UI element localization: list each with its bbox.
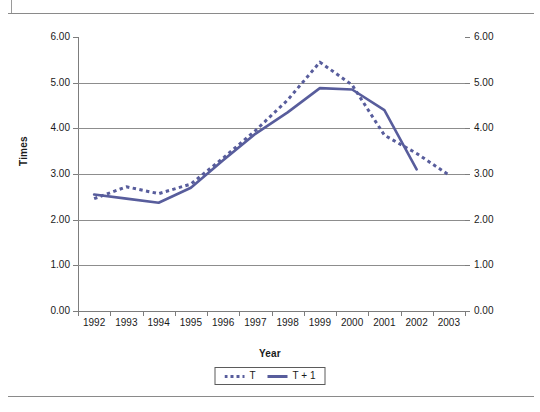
x-tick-label: 2003 bbox=[438, 318, 460, 328]
y-tick-label-right: 3.00 bbox=[474, 169, 493, 179]
x-tick bbox=[401, 311, 402, 316]
y-tick-right bbox=[465, 128, 470, 129]
x-tick bbox=[336, 311, 337, 316]
x-tick bbox=[110, 311, 111, 316]
y-tick-right bbox=[465, 37, 470, 38]
y-tick-right bbox=[465, 265, 470, 266]
y-tick-right bbox=[465, 174, 470, 175]
series-lines bbox=[78, 37, 465, 311]
x-tick-label: 2001 bbox=[373, 318, 395, 328]
x-tick bbox=[175, 311, 176, 316]
x-tick bbox=[304, 311, 305, 316]
y-tick-label-left: 3.00 bbox=[51, 169, 70, 179]
y-axis-title: Times bbox=[18, 136, 29, 166]
x-tick-label: 1992 bbox=[83, 318, 105, 328]
y-tick-label-left: 4.00 bbox=[51, 123, 70, 133]
x-tick-label: 2002 bbox=[406, 318, 428, 328]
legend-label-t-plus-1: T + 1 bbox=[293, 371, 316, 381]
plot-area: 0.000.001.001.002.002.003.003.004.004.00… bbox=[78, 37, 465, 311]
y-tick-label-left: 5.00 bbox=[51, 78, 70, 88]
legend-item-t: T bbox=[225, 371, 256, 381]
y-tick-label-left: 2.00 bbox=[51, 215, 70, 225]
y-tick-right bbox=[465, 220, 470, 221]
series-line-t1 bbox=[94, 88, 417, 203]
x-tick-label: 1998 bbox=[277, 318, 299, 328]
y-tick-label-left: 6.00 bbox=[51, 32, 70, 42]
x-tick-label: 1996 bbox=[212, 318, 234, 328]
x-tick-label: 1994 bbox=[148, 318, 170, 328]
x-tick bbox=[78, 311, 79, 316]
y-tick-label-right: 1.00 bbox=[474, 260, 493, 270]
x-axis-title: Year bbox=[0, 348, 540, 359]
x-tick bbox=[143, 311, 144, 316]
x-tick bbox=[207, 311, 208, 316]
x-tick-label: 1995 bbox=[180, 318, 202, 328]
y-tick-label-right: 4.00 bbox=[474, 123, 493, 133]
y-tick-label-right: 6.00 bbox=[474, 32, 493, 42]
line-chart: Times 0.000.001.001.002.002.003.003.004.… bbox=[0, 18, 540, 393]
x-tick-label: 1999 bbox=[309, 318, 331, 328]
y-tick-label-right: 0.00 bbox=[474, 306, 493, 316]
x-tick bbox=[433, 311, 434, 316]
page-rule-top bbox=[8, 13, 534, 14]
x-tick bbox=[465, 311, 466, 316]
y-tick-label-right: 2.00 bbox=[474, 215, 493, 225]
legend-label-t: T bbox=[250, 371, 256, 381]
y-tick-right bbox=[465, 83, 470, 84]
x-tick-label: 1997 bbox=[244, 318, 266, 328]
x-tick bbox=[368, 311, 369, 316]
page-rule-bottom bbox=[8, 396, 534, 397]
page-canvas: Times 0.000.001.001.002.002.003.003.004.… bbox=[0, 0, 540, 412]
legend-item-t-plus-1: T + 1 bbox=[268, 371, 316, 381]
x-tick-label: 1993 bbox=[115, 318, 137, 328]
x-tick bbox=[239, 311, 240, 316]
solid-line-icon bbox=[268, 375, 288, 378]
y-tick-label-left: 1.00 bbox=[51, 260, 70, 270]
page-edge-tick bbox=[11, 0, 12, 13]
y-tick-label-left: 0.00 bbox=[51, 306, 70, 316]
chart-legend: T T + 1 bbox=[215, 367, 326, 385]
dotted-line-icon bbox=[225, 375, 245, 378]
x-tick bbox=[272, 311, 273, 316]
x-tick-label: 2000 bbox=[341, 318, 363, 328]
y-tick-label-right: 5.00 bbox=[474, 78, 493, 88]
